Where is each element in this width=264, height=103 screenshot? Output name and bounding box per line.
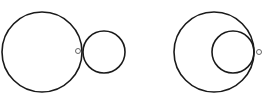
externally-tangent-figure [2, 12, 125, 92]
tangent-circles-diagram [0, 0, 264, 103]
large-circle [174, 12, 254, 92]
internally-tangent-figure [174, 12, 262, 92]
large-circle [2, 12, 82, 92]
point-marker [257, 50, 262, 55]
point-marker [76, 49, 81, 54]
small-circle [212, 31, 254, 73]
small-circle [83, 31, 125, 73]
